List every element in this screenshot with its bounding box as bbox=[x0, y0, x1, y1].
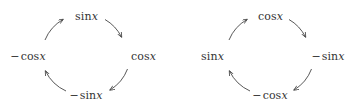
node-function: sin bbox=[201, 50, 218, 63]
arrow-negcosx-to-sinx bbox=[45, 20, 63, 41]
node-label-neg-cosx: −cosx bbox=[252, 89, 287, 102]
arrow-sinx-to-cosx bbox=[105, 20, 122, 38]
node-variable: x bbox=[96, 89, 102, 102]
node-label-neg-cosx: −cosx bbox=[10, 50, 45, 63]
node-label-cosx: cosx bbox=[130, 50, 156, 63]
cycle-arcs-layer bbox=[0, 0, 362, 110]
figure-canvas: sinx cosx −sinx −cosx cosx −sinx −cosx s… bbox=[0, 0, 362, 110]
node-label-neg-sinx: −sinx bbox=[69, 89, 102, 102]
node-label-neg-sinx: −sinx bbox=[311, 50, 344, 63]
node-function: sin bbox=[322, 50, 339, 63]
node-function: cos bbox=[21, 50, 40, 63]
node-sign: − bbox=[69, 89, 79, 102]
node-function: sin bbox=[80, 89, 97, 102]
node-function: cos bbox=[131, 50, 150, 63]
node-variable: x bbox=[338, 50, 344, 63]
arrow-cosx-to-negsinx bbox=[289, 20, 306, 38]
node-label-sinx: sinx bbox=[200, 50, 224, 63]
node-variable: x bbox=[92, 10, 98, 23]
arrow-negcosx-to-sinx bbox=[230, 71, 251, 91]
node-function: cos bbox=[258, 10, 277, 23]
cosine-derivative-cycle-arcs bbox=[229, 20, 312, 92]
node-function: cos bbox=[263, 89, 282, 102]
node-variable: x bbox=[150, 50, 156, 63]
arrow-negsinx-to-negcosx bbox=[46, 71, 67, 91]
node-sign: − bbox=[252, 89, 262, 102]
arrow-cosx-to-negsinx bbox=[110, 69, 128, 90]
node-sign: − bbox=[311, 50, 321, 63]
node-label-cosx: cosx bbox=[257, 10, 283, 23]
node-variable: x bbox=[218, 50, 224, 63]
node-label-sinx: sinx bbox=[74, 10, 98, 23]
node-variable: x bbox=[281, 89, 287, 102]
node-function: sin bbox=[75, 10, 92, 23]
sine-derivative-cycle-arcs bbox=[45, 20, 128, 92]
arrow-sinx-to-cosx bbox=[229, 20, 247, 41]
node-variable: x bbox=[39, 50, 45, 63]
arrow-negsinx-to-negcosx bbox=[294, 69, 312, 90]
node-variable: x bbox=[277, 10, 283, 23]
node-sign: − bbox=[10, 50, 20, 63]
